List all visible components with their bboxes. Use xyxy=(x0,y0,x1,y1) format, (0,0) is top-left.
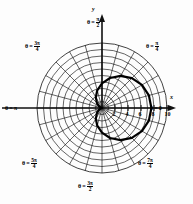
angle-label-prefix: θ = xyxy=(146,43,155,49)
angle-label-theta-3pi-4: θ = 3π4 xyxy=(25,41,40,53)
angle-label-fraction: 7π4 xyxy=(147,158,153,170)
angle-label-prefix: θ = xyxy=(78,183,87,189)
angle-label-fraction: 3π4 xyxy=(34,41,40,53)
fraction-denominator: 4 xyxy=(31,164,37,170)
angle-label-prefix: θ = xyxy=(138,160,147,166)
fraction-denominator: 2 xyxy=(87,187,93,193)
x-tick-label-4: 4 xyxy=(126,111,129,117)
x-tick-label-6: 6 xyxy=(139,111,142,117)
angle-label-prefix: θ = xyxy=(87,19,96,25)
grid-ray-105deg xyxy=(85,45,102,108)
grid-ray-150deg xyxy=(46,76,102,109)
grid-ray-165deg xyxy=(39,91,102,108)
angle-label-fraction: π2 xyxy=(96,17,100,29)
polar-plot-canvas xyxy=(0,0,193,204)
angle-label-value: π xyxy=(14,105,17,111)
fraction-denominator: 4 xyxy=(155,47,159,53)
angle-label-theta-pi: θ = π xyxy=(5,105,17,111)
x-tick-label-10: 10 xyxy=(165,111,171,117)
grid-ray-255deg xyxy=(85,108,102,171)
x-tick-label-2: 2 xyxy=(113,111,116,117)
y-axis-arrowhead xyxy=(99,14,105,22)
x-tick-label-8: 8 xyxy=(152,111,155,117)
y-axis-label: y xyxy=(92,6,95,12)
grid-ray-195deg xyxy=(39,108,102,125)
fraction-denominator: 2 xyxy=(96,23,100,29)
angle-label-theta-5pi-4: θ = 5π4 xyxy=(22,158,37,170)
angle-label-theta-pi-4: θ = π4 xyxy=(146,41,159,53)
grid-ray-210deg xyxy=(46,108,102,141)
polar-graph-figure: θ = 0θ = π4θ = π2θ = 3π4θ = πθ = 5π4θ = … xyxy=(0,0,193,204)
angle-label-prefix: θ = xyxy=(22,160,31,166)
angle-label-prefix: θ = xyxy=(25,43,34,49)
angle-label-fraction: 3π2 xyxy=(87,181,93,193)
angle-label-value: 0 xyxy=(159,105,162,111)
x-axis-label: x xyxy=(170,94,173,100)
angle-label-fraction: 5π4 xyxy=(31,158,37,170)
angle-label-theta-7pi-4: θ = 7π4 xyxy=(138,158,153,170)
fraction-denominator: 4 xyxy=(147,164,153,170)
angle-label-prefix: θ = xyxy=(5,105,14,111)
angle-label-fraction: π4 xyxy=(155,41,159,53)
fraction-denominator: 4 xyxy=(34,47,40,53)
angle-label-theta-pi-2: θ = π2 xyxy=(87,17,100,29)
angle-label-theta-3pi-2: θ = 3π2 xyxy=(78,181,93,193)
